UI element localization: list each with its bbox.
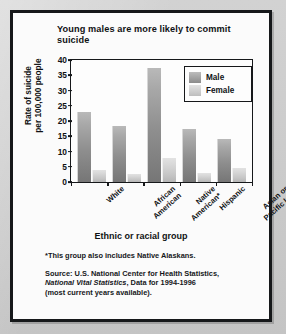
y-tick-5: 5 — [62, 163, 71, 171]
y-tick-40: 40 — [58, 56, 71, 64]
y-tick-35: 35 — [58, 71, 71, 79]
x-axis-title: Ethnic or racial group — [13, 231, 269, 241]
y-axis-title: Rate of suicide per 100,000 people — [24, 34, 43, 158]
source-publication-title: National Vital Statistics — [45, 278, 126, 287]
bar-group — [74, 60, 109, 182]
legend-item-male: Male — [189, 72, 247, 83]
source-line-3: (most current years available). — [45, 288, 152, 297]
x-label-line: White — [106, 185, 127, 205]
chart-card-inner: Young males are more likely to commit su… — [13, 13, 269, 319]
source-line-1: Source: U.S. National Center for Health … — [45, 269, 219, 278]
bar-female — [162, 158, 176, 182]
y-axis-title-line-2: per 100,000 people — [34, 34, 44, 158]
source-line-2-rest: , Data for 1994-1996 — [126, 278, 195, 287]
x-axis-category-labels: WhiteAfricanAmericanNativeAmerican*Hispa… — [70, 185, 253, 229]
bar-group — [144, 60, 179, 182]
x-label-0: White — [106, 185, 127, 205]
chart-title: Young males are more likely to commit su… — [57, 24, 257, 46]
bar-female — [232, 168, 246, 182]
y-tick-30: 30 — [58, 86, 71, 94]
legend-swatch-female-icon — [189, 85, 201, 96]
bar-female — [92, 170, 106, 182]
y-tick-10: 10 — [58, 147, 71, 155]
bar-male — [217, 139, 231, 182]
bar-male — [112, 126, 126, 182]
bar-female — [197, 173, 211, 182]
chart-legend: Male Female — [184, 66, 252, 102]
chart-title-line-1: Young males are more likely to — [57, 24, 195, 34]
x-label-line: Hispanic — [218, 185, 247, 213]
bar-female — [127, 174, 141, 182]
x-label-3: Hispanic — [218, 185, 247, 213]
bar-male — [182, 129, 196, 182]
chart-card: Young males are more likely to commit su… — [10, 10, 272, 322]
x-label-2: NativeAmerican* — [183, 185, 222, 223]
legend-label-male: Male — [206, 73, 224, 82]
legend-swatch-male-icon — [189, 72, 201, 83]
chart-source: Source: U.S. National Center for Health … — [45, 269, 261, 297]
bar-male — [147, 68, 161, 182]
bar-group — [109, 60, 144, 182]
bar-male — [77, 112, 91, 182]
chart-footnote: *This group also includes Native Alaskan… — [45, 251, 257, 260]
y-tick-25: 25 — [58, 102, 71, 110]
legend-label-female: Female — [206, 86, 234, 95]
y-tick-20: 20 — [58, 117, 71, 125]
y-tick-15: 15 — [58, 132, 71, 140]
x-label-1: AfricanAmerican — [146, 185, 183, 221]
legend-item-female: Female — [189, 85, 247, 96]
